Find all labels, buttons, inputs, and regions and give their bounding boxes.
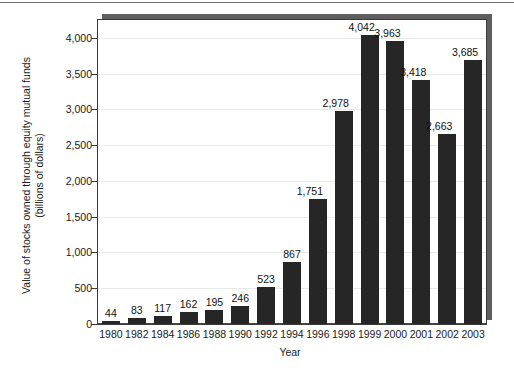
bar[interactable] (438, 134, 456, 324)
y-axis-tick-mark (91, 288, 97, 289)
y-axis-tick-mark (91, 109, 97, 110)
bar[interactable] (309, 199, 327, 324)
bar-value-label: 867 (270, 249, 314, 260)
x-axis-tick-label: 2003 (456, 329, 490, 340)
y-axis-tick-mark (91, 145, 97, 146)
x-axis-title-text: Year (279, 346, 300, 358)
bar[interactable] (283, 262, 301, 324)
y-axis-tick-mark (91, 38, 97, 39)
y-axis-title-line-1: Value of stocks owned through equity mut… (20, 36, 33, 316)
bar-value-label: 3,963 (365, 28, 409, 39)
x-axis-title: Year (0, 346, 514, 358)
bar[interactable] (257, 287, 275, 324)
bar-value-label: 3,685 (443, 47, 487, 58)
y-axis-title-line-2: (billions of dollars) (32, 36, 45, 316)
y-axis-tick-label: 0 (32, 319, 92, 330)
y-axis-tick-mark (91, 324, 97, 325)
bar[interactable] (205, 310, 223, 324)
bar-value-label: 2,663 (417, 121, 461, 132)
bar-value-label: 246 (218, 293, 262, 304)
top-divider-rule (0, 2, 514, 3)
bar-value-label: 3,418 (391, 67, 435, 78)
bar[interactable] (102, 321, 120, 324)
bar[interactable] (154, 316, 172, 324)
y-axis-tick-mark (91, 181, 97, 182)
bar[interactable] (464, 60, 482, 324)
bar-value-label: 523 (244, 274, 288, 285)
bar[interactable] (128, 318, 146, 324)
bar[interactable] (386, 41, 404, 324)
y-axis-title: Value of stocks owned through equity mut… (20, 36, 45, 316)
y-axis-tick-mark (91, 217, 97, 218)
gridline (98, 38, 486, 39)
bar[interactable] (412, 80, 430, 324)
bar[interactable] (231, 306, 249, 324)
bar[interactable] (180, 312, 198, 324)
bar-value-label: 1,751 (288, 186, 332, 197)
y-axis-tick-mark (91, 74, 97, 75)
y-axis-tick-mark (91, 252, 97, 253)
bar[interactable] (361, 35, 379, 324)
bar[interactable] (335, 111, 353, 324)
bar-value-label: 2,978 (314, 98, 358, 109)
chart-plot-frame (97, 19, 487, 325)
